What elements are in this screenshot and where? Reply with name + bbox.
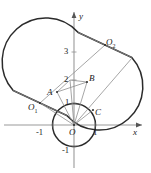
ray-O-to-C xyxy=(74,110,93,125)
point-label-O2: O2 xyxy=(106,38,116,49)
geometry-canvas xyxy=(0,0,151,173)
point-dot-A xyxy=(56,91,58,93)
tick-label-y1: 1 xyxy=(65,98,69,107)
tick-label-y2: 2 xyxy=(64,75,68,84)
point-label-B: B xyxy=(89,74,95,83)
point-dot-C xyxy=(92,109,94,111)
tick-label-y-neg1: -1 xyxy=(62,146,69,155)
point-label-O1: O1 xyxy=(28,103,38,114)
tick-label-y3: 3 xyxy=(64,47,68,56)
y-axis-arrowhead xyxy=(72,12,77,18)
x-axis-label: x xyxy=(133,128,137,137)
axis-group xyxy=(4,12,142,168)
point-label-O2-subscript: 2 xyxy=(113,43,116,49)
point-dot-B xyxy=(86,81,88,83)
ray-O-through-C-extended xyxy=(74,58,132,125)
point-dot-O xyxy=(73,124,75,126)
point-label-O1-subscript: 1 xyxy=(35,108,38,114)
geometry-figure: y x O O1 O2 A B C 3 2 1 -1 1 -1 xyxy=(0,0,151,173)
point-label-A: A xyxy=(47,88,53,97)
point-label-O: O xyxy=(69,128,76,137)
y-axis-label: y xyxy=(79,12,83,21)
tick-label-x1: 1 xyxy=(93,128,97,137)
point-label-C: C xyxy=(95,108,101,117)
tick-label-x-neg1: -1 xyxy=(36,128,43,137)
point-dot-O1 xyxy=(39,102,41,104)
